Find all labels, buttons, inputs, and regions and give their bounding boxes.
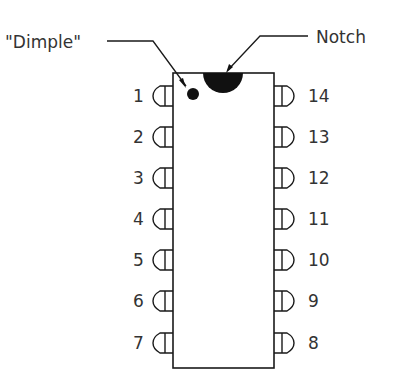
pin-lead-right bbox=[274, 209, 294, 229]
pin-right: 9 bbox=[274, 291, 319, 311]
pin-lead-left bbox=[153, 291, 173, 311]
pin-number: 12 bbox=[308, 168, 330, 188]
pin-number: 10 bbox=[308, 250, 330, 270]
pin-lead-right bbox=[274, 127, 294, 147]
dimple-marker bbox=[187, 88, 199, 100]
pin-right: 11 bbox=[274, 209, 330, 229]
pin-number: 11 bbox=[308, 209, 330, 229]
pin-left: 4 bbox=[133, 209, 173, 229]
pin-left: 6 bbox=[133, 291, 173, 311]
pin-lead-left bbox=[153, 86, 173, 106]
pin-right: 14 bbox=[274, 86, 330, 106]
pin-number: 7 bbox=[133, 333, 144, 353]
notch-leader bbox=[228, 36, 308, 70]
pin-lead-right bbox=[274, 250, 294, 270]
pin-right: 8 bbox=[274, 333, 319, 353]
pin-lead-left bbox=[153, 209, 173, 229]
pin-left: 7 bbox=[133, 333, 173, 353]
pin-lead-right bbox=[274, 86, 294, 106]
ic-pinout-diagram: "Dimple" Notch 1234567141312111098 bbox=[0, 0, 393, 380]
pin-left: 1 bbox=[133, 86, 173, 106]
pin-lead-left bbox=[153, 333, 173, 353]
pin-number: 2 bbox=[133, 127, 144, 147]
pin-number: 9 bbox=[308, 291, 319, 311]
pin-left: 2 bbox=[133, 127, 173, 147]
pin-number: 4 bbox=[133, 209, 144, 229]
pin-lead-left bbox=[153, 250, 173, 270]
pin-right: 13 bbox=[274, 127, 330, 147]
pin-lead-left bbox=[153, 168, 173, 188]
chip-body bbox=[173, 73, 274, 368]
pin-number: 3 bbox=[133, 168, 144, 188]
pin-lead-right bbox=[274, 291, 294, 311]
pin-number: 8 bbox=[308, 333, 319, 353]
pin-number: 5 bbox=[133, 250, 144, 270]
pin-number: 1 bbox=[133, 86, 144, 106]
pin-lead-right bbox=[274, 333, 294, 353]
pin-left: 5 bbox=[133, 250, 173, 270]
pin-lead-left bbox=[153, 127, 173, 147]
pin-right: 10 bbox=[274, 250, 330, 270]
dimple-label: "Dimple" bbox=[5, 32, 81, 52]
pin-number: 14 bbox=[308, 86, 330, 106]
pin-right: 12 bbox=[274, 168, 330, 188]
pin-number: 13 bbox=[308, 127, 330, 147]
notch-label: Notch bbox=[316, 27, 366, 47]
pin-number: 6 bbox=[133, 291, 144, 311]
pin-left: 3 bbox=[133, 168, 173, 188]
pin-lead-right bbox=[274, 168, 294, 188]
